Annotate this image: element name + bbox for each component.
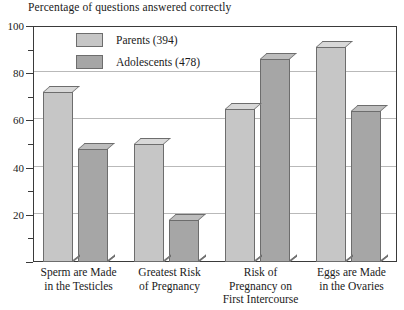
x-axis-label-line: of Pregnancy bbox=[124, 280, 215, 294]
bar-adolescents-2 bbox=[260, 59, 290, 262]
bar-face bbox=[351, 111, 381, 262]
x-axis-label-2: Risk ofPregnancy onFirst Intercourse bbox=[215, 266, 306, 307]
legend-label-parents: Parents (394) bbox=[116, 34, 178, 46]
x-axis-label-line: Greatest Risk bbox=[124, 266, 215, 280]
bar-side bbox=[290, 255, 297, 262]
y-tick-major-80 bbox=[26, 73, 33, 74]
bar-adolescents-0 bbox=[78, 149, 108, 262]
legend-item-parents: Parents (394) bbox=[76, 30, 256, 50]
chart-legend: Parents (394)Adolescents (478) bbox=[76, 30, 256, 74]
y-tick-major-40 bbox=[26, 168, 33, 169]
bar-adolescents-3 bbox=[351, 111, 381, 262]
bar-face bbox=[260, 59, 290, 262]
y-axis-label-80: 80 bbox=[13, 68, 24, 79]
y-axis-label-100: 100 bbox=[8, 21, 25, 32]
chart-title: Percentage of questions answered correct… bbox=[28, 1, 231, 13]
bar-parents-3 bbox=[316, 47, 346, 262]
bar-face bbox=[43, 92, 73, 262]
y-axis-label-60: 60 bbox=[13, 115, 24, 126]
bar-face bbox=[134, 144, 164, 262]
y-axis-label-20: 20 bbox=[13, 209, 24, 220]
x-axis-label-0: Sperm are Madein the Testicles bbox=[33, 266, 124, 293]
x-axis-label-line: Eggs are Made bbox=[306, 266, 397, 280]
x-axis-label-line: in the Ovaries bbox=[306, 280, 397, 294]
y-axis: 20406080100 bbox=[0, 26, 33, 262]
bar-face bbox=[78, 149, 108, 262]
bar-side bbox=[381, 255, 388, 262]
x-axis-label-line: Pregnancy on bbox=[215, 280, 306, 294]
y-axis-label-40: 40 bbox=[13, 162, 24, 173]
x-axis-label-line: Sperm are Made bbox=[33, 266, 124, 280]
bar-face bbox=[169, 220, 199, 262]
x-axis-label-line: Risk of bbox=[215, 266, 306, 280]
legend-swatch-parents bbox=[76, 33, 103, 47]
bar-face bbox=[225, 109, 255, 262]
bar-adolescents-1 bbox=[169, 220, 199, 262]
x-axis-labels: Sperm are Madein the TesticlesGreatest R… bbox=[33, 266, 397, 310]
legend-label-adolescents: Adolescents (478) bbox=[116, 56, 200, 68]
x-axis-label-line: First Intercourse bbox=[215, 293, 306, 307]
x-axis-label-3: Eggs are Madein the Ovaries bbox=[306, 266, 397, 293]
y-tick-major-20 bbox=[26, 215, 33, 216]
bar-parents-2 bbox=[225, 109, 255, 262]
bar-parents-0 bbox=[43, 92, 73, 262]
y-tick-major-100 bbox=[26, 26, 33, 27]
x-axis-label-line: in the Testicles bbox=[33, 280, 124, 294]
x-axis-label-1: Greatest Riskof Pregnancy bbox=[124, 266, 215, 293]
chart-container: Percentage of questions answered correct… bbox=[0, 0, 404, 310]
legend-item-adolescents: Adolescents (478) bbox=[76, 52, 256, 72]
bar-parents-1 bbox=[134, 144, 164, 262]
bar-side bbox=[108, 255, 115, 262]
legend-swatch-adolescents bbox=[76, 55, 103, 69]
bar-side bbox=[199, 255, 206, 262]
y-tick-major-60 bbox=[26, 120, 33, 121]
y-tick-major-0 bbox=[26, 262, 33, 263]
bar-face bbox=[316, 47, 346, 262]
